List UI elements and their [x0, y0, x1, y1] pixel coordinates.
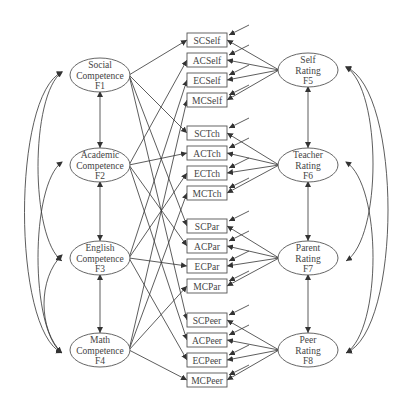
indicator-label: SCPar — [195, 222, 220, 232]
indicator-label: MCTch — [193, 189, 222, 199]
indicator-label: ACSelf — [193, 56, 222, 66]
indicator-label: ECPar — [195, 262, 221, 272]
factor-label: Math — [90, 335, 110, 345]
factor-label: English — [85, 243, 114, 253]
factor-label: Competence — [76, 346, 123, 356]
factor-label: Competence — [76, 161, 123, 171]
indicator-mcself: MCSelf — [187, 93, 227, 107]
factor-label: F5 — [303, 76, 313, 86]
indicator-ectch: ECTch — [187, 166, 227, 180]
indicator-label: MCSelf — [192, 96, 223, 106]
indicator-label: ACPeer — [192, 336, 223, 346]
trait-factor-f1: SocialCompetenceF1 — [70, 58, 130, 92]
indicator-acpeer: ACPeer — [187, 333, 227, 347]
indicator-acpar: ACPar — [187, 239, 227, 253]
indicator-ecpeer: ECPeer — [187, 353, 227, 367]
indicator-actch: ACTch — [187, 146, 227, 160]
factor-label: Self — [300, 55, 316, 65]
factor-label: Academic — [81, 150, 120, 160]
trait-factor-f4: MathCompetenceF4 — [70, 333, 130, 367]
method-factor-f5: SelfRatingF5 — [278, 53, 338, 87]
indicator-mcpar: MCPar — [187, 279, 227, 293]
indicator-mctch: MCTch — [187, 186, 227, 200]
indicator-acself: ACSelf — [187, 53, 227, 67]
factor-label: F1 — [95, 81, 105, 91]
indicator-scself: SCSelf — [187, 33, 227, 47]
factor-label: Rating — [295, 161, 321, 171]
method-factor-f7: ParentRatingF7 — [278, 241, 338, 275]
indicator-sctch: SCTch — [187, 126, 227, 140]
factor-label: F3 — [95, 264, 105, 274]
indicator-label: ACPar — [194, 242, 221, 252]
indicator-label: MCPar — [193, 282, 221, 292]
indicator-label: ECSelf — [193, 76, 221, 86]
factor-label: Rating — [295, 66, 321, 76]
indicator-label: ECPeer — [192, 356, 222, 366]
indicator-label: ACTch — [193, 149, 221, 159]
factor-label: Rating — [295, 346, 321, 356]
trait-factor-f2: AcademicCompetenceF2 — [70, 148, 130, 182]
factor-label: Teacher — [293, 150, 324, 160]
indicator-ecpar: ECPar — [187, 259, 227, 273]
indicator-ecself: ECSelf — [187, 73, 227, 87]
indicator-label: MCPeer — [191, 376, 224, 386]
factor-label: F6 — [303, 171, 313, 181]
factor-label: Rating — [295, 254, 321, 264]
indicator-label: SCPeer — [193, 316, 222, 326]
indicator-scpeer: SCPeer — [187, 313, 227, 327]
factor-label: Social — [88, 60, 112, 70]
indicator-mcpeer: MCPeer — [187, 373, 227, 387]
indicator-label: ECTch — [194, 169, 220, 179]
method-factor-f6: TeacherRatingF6 — [278, 148, 338, 182]
factor-label: F7 — [303, 264, 313, 274]
factor-label: Parent — [296, 243, 321, 253]
method-factor-f8: PeerRatingF8 — [278, 333, 338, 367]
factor-label: Competence — [76, 71, 123, 81]
factor-label: F8 — [303, 356, 313, 366]
indicator-label: SCTch — [194, 129, 220, 139]
indicator-label: SCSelf — [194, 36, 222, 46]
indicator-scpar: SCPar — [187, 219, 227, 233]
trait-factor-f3: EnglishCompetenceF3 — [70, 241, 130, 275]
factor-label: F4 — [95, 356, 105, 366]
factor-label: Competence — [76, 254, 123, 264]
factor-label: F2 — [95, 171, 105, 181]
sem-diagram: SocialCompetenceF1AcademicCompetenceF2En… — [0, 0, 405, 405]
factor-label: Peer — [300, 335, 318, 345]
